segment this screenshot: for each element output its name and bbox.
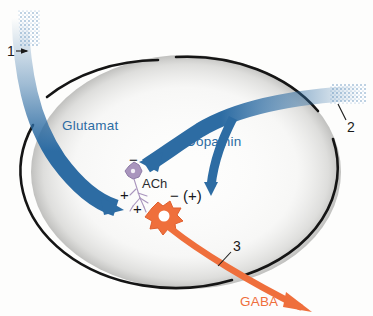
diagram-canvas: ACh Glutamat Dopamin GABA − + + − (+) 1 … bbox=[0, 0, 373, 316]
gaba-nucleus bbox=[159, 211, 170, 222]
callout-2-number: 2 bbox=[347, 119, 355, 135]
dopamine-label: Dopamin bbox=[186, 134, 241, 149]
figure-root: ACh Glutamat Dopamin GABA − + + − (+) 1 … bbox=[0, 0, 373, 316]
callout-3-number: 3 bbox=[233, 238, 241, 254]
ach-nucleus bbox=[131, 169, 135, 173]
callout-2: 2 bbox=[338, 104, 355, 135]
glutamate-label: Glutamat bbox=[62, 118, 118, 133]
gaba-label: GABA bbox=[240, 294, 278, 309]
sign-minus-dopamine-ach: − bbox=[129, 151, 138, 168]
ach-label: ACh bbox=[142, 176, 167, 191]
sign-plus-glutamate: + bbox=[120, 186, 129, 203]
gaba-arrowhead bbox=[283, 292, 312, 312]
callout-2-leader bbox=[338, 104, 346, 120]
callout-1-number: 1 bbox=[7, 43, 15, 59]
sign-minus-plus-dopamine-gaba: − (+) bbox=[170, 187, 202, 204]
sign-plus-ach-gaba: + bbox=[133, 200, 142, 217]
